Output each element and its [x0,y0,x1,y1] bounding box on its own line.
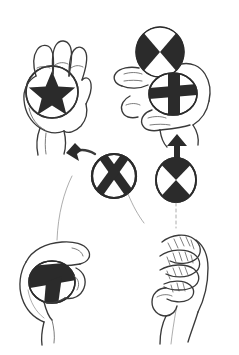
cross-disc-lower [148,72,198,116]
vertical-bowtie-disc [153,156,199,205]
curved-rotation-arrow-left [66,143,95,161]
bowtie-disc-upper [136,24,184,80]
illustration-canvas: Hand and patterned disc instructional il… [0,0,239,355]
panel-top-left [24,41,91,155]
x-disc [91,149,137,201]
panel-top-right [114,24,210,147]
hand-back-and-wrist [160,240,208,344]
panel-bottom-right [152,235,208,344]
leader-line-to-bottom-left-hand [57,176,72,240]
hand-disc-illustration [0,0,239,355]
leader-line-from-x-disc [128,194,144,223]
panel-center [57,134,199,240]
star-disc [26,66,78,118]
panel-bottom-left [20,242,90,345]
hatched-curled-fingers [160,235,200,302]
